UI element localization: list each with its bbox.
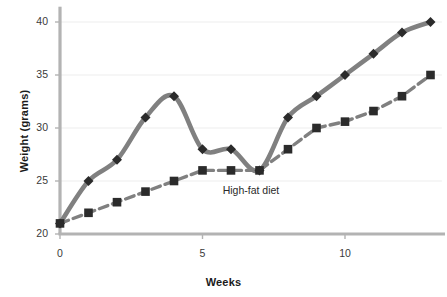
data-point-marker: [369, 107, 378, 116]
x-axis-tick-label: 10: [330, 247, 360, 259]
data-point-marker: [398, 92, 407, 101]
data-point-marker: [227, 166, 236, 175]
y-axis-tick-label: 30: [22, 121, 48, 133]
data-point-marker: [198, 166, 207, 175]
chart-container: Weeks Weight (grams) High-fat diet 20253…: [0, 0, 447, 297]
data-point-marker: [84, 209, 93, 218]
data-point-marker: [284, 145, 293, 154]
y-axis-tick-label: 35: [22, 68, 48, 80]
y-axis-tick-label: 20: [22, 227, 48, 239]
y-axis-tick-label: 25: [22, 174, 48, 186]
x-axis-tick-label: 0: [45, 247, 75, 259]
data-point-marker: [170, 177, 179, 186]
data-point-marker: [113, 198, 122, 207]
x-axis-tick-label: 5: [188, 247, 218, 259]
data-point-marker: [312, 124, 321, 133]
data-point-marker: [426, 71, 435, 80]
data-point-marker: [141, 187, 150, 196]
x-axis-title: Weeks: [0, 276, 447, 288]
y-axis-tick-label: 40: [22, 15, 48, 27]
data-point-marker: [341, 117, 350, 126]
high-fat-diet-annotation: High-fat diet: [223, 184, 280, 196]
